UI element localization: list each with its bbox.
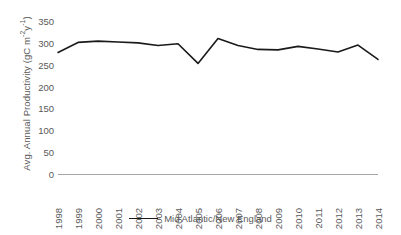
y-tick-label: 200 <box>22 81 54 92</box>
y-axis-ticks: 050100150200250300350 <box>22 14 54 175</box>
chart-legend: Mid Atlantic/New England <box>0 213 401 224</box>
y-tick-label: 50 <box>22 147 54 158</box>
y-tick-label: 250 <box>22 59 54 70</box>
y-tick-label: 150 <box>22 103 54 114</box>
legend-line-swatch <box>129 218 158 219</box>
plot-svg <box>58 21 378 174</box>
y-tick-label: 350 <box>22 16 54 27</box>
y-tick-label: 300 <box>22 37 54 48</box>
plot-area <box>58 21 378 174</box>
chart-container: Avg. Annual Productivity (gC m-2y-1) 050… <box>0 0 401 235</box>
legend-label: Mid Atlantic/New England <box>164 213 272 224</box>
x-axis-line <box>58 174 378 175</box>
x-axis-ticks: 1998199920002001200220032004200520062007… <box>58 176 378 210</box>
series-line-mid-atlantic-new-england <box>58 38 378 63</box>
y-tick-label: 100 <box>22 125 54 136</box>
y-tick-label: 0 <box>22 169 54 180</box>
